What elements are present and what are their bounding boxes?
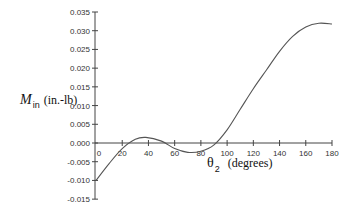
x-tick-label: 40 <box>144 149 153 158</box>
y-tick-label: 0.020 <box>70 64 91 73</box>
y-tick-label: 0.035 <box>70 8 91 17</box>
y-tick-label: 0.030 <box>70 27 91 36</box>
x-tick-label: 20 <box>118 149 127 158</box>
y-tick-label: -0.005 <box>67 158 90 167</box>
data-line-m-in <box>96 23 332 180</box>
x-tick-label: 180 <box>325 149 339 158</box>
x-tick-label: 0 <box>97 149 102 158</box>
x-tick-label: 160 <box>299 149 313 158</box>
y-axis-title: Min(in.-lb) <box>19 92 77 110</box>
x-tick-label: 140 <box>273 149 287 158</box>
line-chart: 0.0350.0300.0250.0200.0150.0100.0050.000… <box>0 0 353 213</box>
y-tick-label: 0.005 <box>70 120 91 129</box>
y-tick-label: -0.015 <box>67 195 90 204</box>
y-tick-label: -0.010 <box>67 176 90 185</box>
y-tick-label: 0.025 <box>70 45 91 54</box>
y-tick-label: 0.000 <box>70 139 91 148</box>
x-axis-title: θ2(degrees) <box>207 155 272 174</box>
y-tick-label: 0.015 <box>70 83 91 92</box>
